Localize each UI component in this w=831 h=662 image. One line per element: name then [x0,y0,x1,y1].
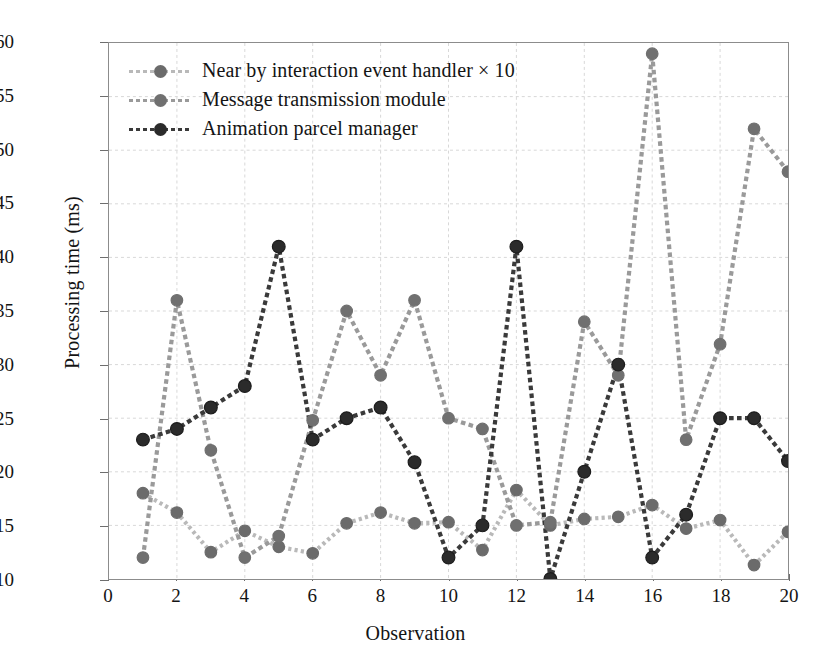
y-tick-mark [100,257,108,258]
y-tick-45: 45 [0,193,14,212]
legend-label: Near by interaction event handler × 10 [202,59,515,82]
chart-legend: Near by interaction event handler × 10Me… [125,52,523,149]
x-axis-label: Observation [0,622,831,645]
y-tick-mark [100,526,108,527]
y-tick-50: 50 [0,140,14,159]
legend-swatch-icon [129,64,191,78]
y-tick-55: 55 [0,86,14,105]
legend-marker-icon [154,123,167,136]
y-tick-25: 25 [0,409,14,428]
legend-label: Animation parcel manager [202,117,418,140]
x-tick-10: 10 [419,586,479,605]
y-tick-10: 10 [0,570,14,589]
y-tick-mark [100,419,108,420]
legend-item-2[interactable]: Animation parcel manager [129,114,515,143]
x-tick-0: 0 [78,586,138,605]
legend-marker-icon [154,94,167,107]
legend-marker-icon [154,65,167,78]
x-tick-14: 14 [555,586,615,605]
y-tick-mark [100,42,108,43]
series-markers-0 [137,484,788,571]
legend-label: Message transmission module [202,88,446,111]
y-tick-mark [100,150,108,151]
y-tick-30: 30 [0,355,14,374]
x-tick-4: 4 [214,586,274,605]
legend-swatch-icon [129,93,191,107]
x-tick-20: 20 [759,586,819,605]
y-tick-20: 20 [0,462,14,481]
y-tick-40: 40 [0,247,14,266]
x-tick-16: 16 [623,586,683,605]
chart-container: Processing time (ms) Observation 1015202… [0,0,831,662]
x-tick-12: 12 [487,586,547,605]
y-tick-mark [100,203,108,204]
legend-swatch-icon [129,122,191,136]
legend-item-0[interactable]: Near by interaction event handler × 10 [129,56,515,85]
x-tick-2: 2 [146,586,206,605]
y-tick-mark [100,96,108,97]
y-tick-15: 15 [0,516,14,535]
y-axis-label: Processing time (ms) [61,153,84,413]
x-tick-6: 6 [282,586,342,605]
y-tick-mark [100,472,108,473]
y-tick-60: 60 [0,32,14,51]
y-tick-mark [100,365,108,366]
y-tick-mark [100,311,108,312]
y-tick-mark [100,580,108,581]
x-tick-8: 8 [350,586,410,605]
legend-item-1[interactable]: Message transmission module [129,85,515,114]
x-tick-mark [789,574,790,581]
x-tick-18: 18 [691,586,751,605]
y-tick-35: 35 [0,301,14,320]
